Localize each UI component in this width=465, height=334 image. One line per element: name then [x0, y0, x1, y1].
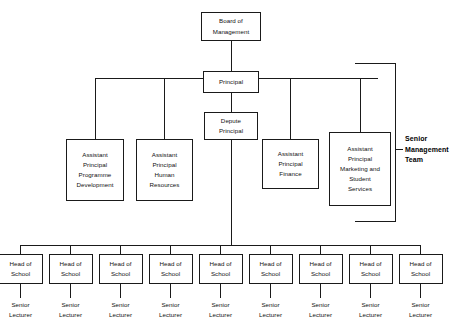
- node-senior-lecturer: SeniorLecturer: [245, 300, 297, 320]
- connector-depute-to-schools: [231, 140, 232, 245]
- org-chart: Board of Management Principal Depute Pri…: [0, 0, 465, 334]
- smt-line3: Team: [405, 156, 423, 163]
- head-of-school-line1: Head of: [107, 259, 133, 269]
- senior-lecturer-line1: Senior: [295, 300, 347, 310]
- head-of-school-line2: School: [7, 269, 33, 279]
- senior-lecturer-line2: Lecturer: [45, 310, 97, 320]
- node-assistant-principal-finance: Assistant Principal Finance: [262, 139, 319, 189]
- connector-head-to-senior-lecturer: [70, 284, 71, 298]
- head-of-school-line2: School: [207, 269, 233, 279]
- connector-head-to-senior-lecturer: [420, 284, 421, 298]
- senior-lecturer-line1: Senior: [0, 300, 47, 310]
- drop-to-head-of-school: [220, 245, 221, 254]
- senior-lecturer-line1: Senior: [345, 300, 397, 310]
- depute-label-line1: Depute: [217, 116, 245, 126]
- ap-hr-line1: Assistant: [147, 150, 181, 160]
- node-head-of-school: Head ofSchool: [249, 254, 293, 284]
- drop-to-head-of-school: [20, 245, 21, 254]
- node-assistant-principal-programme-development: Assistant Principal Programme Developmen…: [66, 139, 124, 201]
- head-of-school-line1: Head of: [207, 259, 233, 269]
- node-assistant-principal-human-resources: Assistant Principal Human Resources: [136, 139, 193, 201]
- smt-bracket-spine: [395, 63, 396, 222]
- ap-marketing-line3: Marketing and: [338, 164, 382, 174]
- smt-bracket-tick: [396, 149, 403, 150]
- senior-lecturer-line1: Senior: [245, 300, 297, 310]
- connector-head-to-senior-lecturer: [220, 284, 221, 298]
- node-senior-lecturer: SeniorLecturer: [295, 300, 347, 320]
- board-label-line1: Board of: [211, 16, 252, 26]
- ap-programme-line3: Programme: [74, 170, 115, 180]
- head-of-school-line2: School: [157, 269, 183, 279]
- senior-lecturer-line2: Lecturer: [95, 310, 147, 320]
- node-senior-lecturer: SeniorLecturer: [195, 300, 247, 320]
- drop-to-head-of-school: [70, 245, 71, 254]
- head-of-school-line1: Head of: [7, 259, 33, 269]
- board-label-line2: Management: [211, 27, 252, 37]
- smt-line1: Senior: [405, 135, 427, 142]
- head-of-school-line2: School: [107, 269, 133, 279]
- head-of-school-line1: Head of: [407, 259, 433, 269]
- node-head-of-school: Head ofSchool: [49, 254, 93, 284]
- drop-to-ap-finance: [290, 78, 291, 139]
- drop-to-ap-marketing: [360, 78, 361, 132]
- connector-head-to-senior-lecturer: [370, 284, 371, 298]
- node-senior-lecturer: SeniorLecturer: [395, 300, 447, 320]
- senior-lecturer-line1: Senior: [45, 300, 97, 310]
- ap-programme-line1: Assistant: [74, 150, 115, 160]
- drop-to-head-of-school: [270, 245, 271, 254]
- principal-label: Principal: [217, 77, 245, 87]
- head-of-school-line1: Head of: [357, 259, 383, 269]
- connector-head-to-senior-lecturer: [20, 284, 21, 298]
- senior-lecturer-line2: Lecturer: [145, 310, 197, 320]
- senior-lecturer-line2: Lecturer: [395, 310, 447, 320]
- senior-lecturer-line2: Lecturer: [345, 310, 397, 320]
- senior-lecturer-line1: Senior: [95, 300, 147, 310]
- node-senior-lecturer: SeniorLecturer: [0, 300, 47, 320]
- drop-to-head-of-school: [320, 245, 321, 254]
- senior-lecturer-line2: Lecturer: [295, 310, 347, 320]
- connector-head-to-senior-lecturer: [170, 284, 171, 298]
- node-board-of-management: Board of Management: [201, 12, 261, 41]
- senior-lecturer-line1: Senior: [395, 300, 447, 310]
- head-of-school-line1: Head of: [307, 259, 333, 269]
- connector-head-to-senior-lecturer: [270, 284, 271, 298]
- drop-to-head-of-school: [370, 245, 371, 254]
- node-head-of-school: Head ofSchool: [199, 254, 243, 284]
- node-senior-lecturer: SeniorLecturer: [345, 300, 397, 320]
- connector-principal-to-depute: [231, 93, 232, 112]
- ap-finance-line2: Principal: [276, 159, 306, 169]
- ap-finance-line3: Finance: [276, 169, 306, 179]
- node-head-of-school: Head ofSchool: [399, 254, 443, 284]
- smt-bracket-top: [355, 63, 396, 64]
- drop-to-head-of-school: [120, 245, 121, 254]
- connector-head-to-senior-lecturer: [320, 284, 321, 298]
- head-of-school-line1: Head of: [157, 259, 183, 269]
- node-senior-lecturer: SeniorLecturer: [45, 300, 97, 320]
- ap-programme-line2: Principal: [74, 160, 115, 170]
- ap-hr-line4: Resources: [147, 180, 181, 190]
- ap-marketing-line1: Assistant: [338, 144, 382, 154]
- connector-board-to-principal: [231, 41, 232, 71]
- head-of-school-line2: School: [357, 269, 383, 279]
- connector-head-to-senior-lecturer: [120, 284, 121, 298]
- ap-marketing-line2: Principal: [338, 154, 382, 164]
- head-of-school-line2: School: [57, 269, 83, 279]
- drop-to-ap-programme: [95, 78, 96, 139]
- node-senior-lecturer: SeniorLecturer: [145, 300, 197, 320]
- node-head-of-school: Head ofSchool: [0, 254, 43, 284]
- node-assistant-principal-marketing-student-services: Assistant Principal Marketing and Studen…: [329, 132, 391, 206]
- senior-lecturer-line1: Senior: [195, 300, 247, 310]
- drop-to-head-of-school: [420, 245, 421, 254]
- senior-lecturer-line2: Lecturer: [245, 310, 297, 320]
- ap-finance-line1: Assistant: [276, 149, 306, 159]
- drop-to-ap-hr: [164, 78, 165, 139]
- ap-marketing-line5: Services: [338, 184, 382, 194]
- head-of-school-line1: Head of: [257, 259, 283, 269]
- senior-lecturer-line2: Lecturer: [0, 310, 47, 320]
- depute-label-line2: Principal: [217, 126, 245, 136]
- smt-bracket-bottom: [355, 221, 396, 222]
- drop-to-head-of-school: [170, 245, 171, 254]
- ap-programme-line4: Development: [74, 180, 115, 190]
- senior-management-team-label: Senior Management Team: [405, 134, 463, 166]
- node-head-of-school: Head ofSchool: [349, 254, 393, 284]
